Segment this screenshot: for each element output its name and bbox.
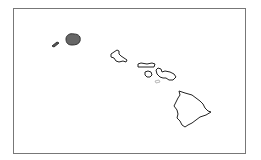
hawaii-map	[0, 0, 261, 160]
island-niihau[interactable]	[52, 42, 59, 47]
island-hawaii[interactable]	[174, 91, 211, 127]
island-lanai[interactable]	[145, 71, 152, 77]
island-kauai[interactable]	[66, 34, 80, 45]
island-oahu[interactable]	[111, 50, 127, 62]
island-kahoolawe[interactable]	[155, 80, 160, 83]
island-molokai[interactable]	[138, 63, 155, 67]
island-maui[interactable]	[156, 68, 176, 80]
